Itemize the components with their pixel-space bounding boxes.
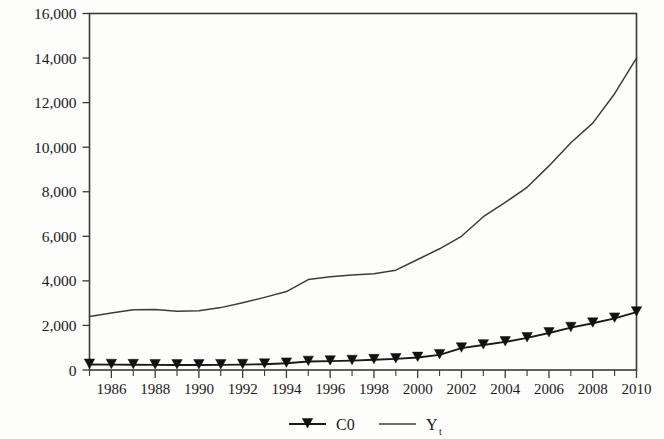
- legend-label-y-subscript: t: [439, 426, 442, 437]
- y-axis-ticks: [83, 14, 90, 371]
- y-axis-tick-labels: 02,0004,0006,0008,00010,00012,00014,0001…: [34, 5, 77, 379]
- x-tick-label: 1990: [184, 381, 214, 397]
- x-tick-label: 2002: [446, 381, 476, 397]
- legend-label-y: Y: [426, 416, 438, 433]
- y-tick-label: 2,000: [42, 317, 77, 334]
- x-axis-ticks: [90, 370, 637, 378]
- x-tick-label: 1994: [271, 381, 302, 397]
- y-tick-label: 6,000: [42, 228, 77, 245]
- series-line-c0: [90, 312, 637, 365]
- plot-frame: [90, 14, 637, 371]
- x-tick-label: 2000: [403, 381, 433, 397]
- x-tick-label: 2010: [622, 381, 652, 397]
- y-tick-label: 4,000: [42, 272, 77, 289]
- x-tick-label: 1986: [96, 381, 127, 397]
- x-tick-label: 2004: [490, 381, 521, 397]
- x-tick-label: 1996: [315, 381, 346, 397]
- data-point-marker: [631, 307, 641, 316]
- series-line-y: [90, 58, 637, 316]
- y-tick-label: 16,000: [34, 5, 77, 22]
- y-tick-label: 0: [69, 362, 77, 379]
- x-tick-label: 1998: [359, 381, 389, 397]
- y-tick-label: 12,000: [34, 94, 77, 111]
- line-chart: 02,0004,0006,0008,00010,00012,00014,0001…: [0, 0, 664, 439]
- y-tick-label: 10,000: [34, 139, 77, 156]
- y-tick-label: 14,000: [34, 50, 77, 67]
- chart-figure: 02,0004,0006,0008,00010,00012,00014,0001…: [0, 0, 664, 439]
- x-tick-label: 1988: [140, 381, 170, 397]
- x-axis-tick-labels: 1986198819901992199419961998200020022004…: [96, 381, 651, 397]
- legend-label-c0: C0: [336, 416, 355, 433]
- chart-legend: C0 Y t: [289, 416, 442, 437]
- y-tick-label: 8,000: [42, 183, 77, 200]
- x-tick-label: 2006: [534, 381, 565, 397]
- x-tick-label: 2008: [578, 381, 608, 397]
- x-tick-label: 1992: [228, 381, 258, 397]
